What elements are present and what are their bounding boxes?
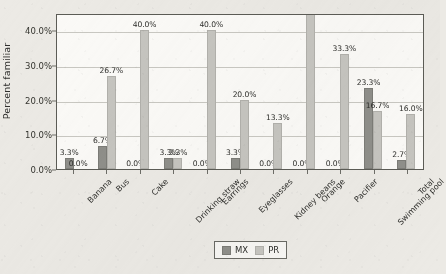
bar-value-label: 16.0%	[399, 104, 423, 113]
bar-value-label: 26.7%	[100, 66, 124, 75]
bar-mx: 0.0%	[264, 14, 273, 169]
bar-pr: 16.7%	[373, 14, 382, 169]
bar-fill	[273, 123, 282, 169]
bar-mx: 6.7%	[98, 14, 107, 169]
x-tick-mark	[106, 170, 107, 174]
bar-pr: 33.3%	[340, 14, 349, 169]
bar-group: 3.3%20.0%	[223, 15, 256, 169]
bar-value-label: 13.3%	[266, 113, 290, 122]
x-tick-mark	[340, 170, 341, 174]
bar-group: 23.3%16.7%	[356, 15, 389, 169]
bar-group: 0.0%13.3%	[257, 15, 290, 169]
bar-pr: 46.7%	[306, 14, 315, 169]
bar-mx: 2.7%	[397, 14, 406, 169]
bar-fill	[306, 14, 315, 169]
bar-pr: 13.3%	[273, 14, 282, 169]
bar-fill	[107, 76, 116, 169]
y-tick-label: 20.0%	[4, 96, 52, 106]
bar-fill	[373, 111, 382, 169]
bar-pr: 16.0%	[406, 14, 415, 169]
bar-value-label: 33.3%	[332, 44, 356, 53]
y-tick-label: 30.0%	[4, 61, 52, 71]
x-tick-label: Bus	[114, 177, 131, 194]
y-tick-label: 10.0%	[4, 130, 52, 140]
bar-group: 2.7%16.0%	[390, 15, 423, 169]
bar-pr: 40.0%	[207, 14, 216, 169]
x-tick-mark	[374, 170, 375, 174]
bar-value-label: 40.0%	[199, 20, 223, 29]
y-tick-mark	[52, 135, 56, 136]
bar-group: 6.7%26.7%	[90, 15, 123, 169]
bar-mx: 0.0%	[331, 14, 340, 169]
bar-group: 0.0%33.3%	[323, 15, 356, 169]
x-tick-mark	[173, 170, 174, 174]
bar-fill	[340, 54, 349, 169]
plot-area: 3.3%0.0%6.7%26.7%0.0%40.0%3.3%3.3%0.0%40…	[56, 14, 424, 170]
y-tick-mark	[52, 100, 56, 101]
y-tick-label: 40.0%	[4, 26, 52, 36]
x-tick-mark	[140, 170, 141, 174]
bar-pr: 3.3%	[173, 14, 182, 169]
bar-mx: 0.0%	[297, 14, 306, 169]
legend-item-mx: MX	[222, 245, 248, 255]
bar-mx: 3.3%	[164, 14, 173, 169]
x-tick-mark	[240, 170, 241, 174]
x-tick-label: Eyeglasses	[257, 177, 295, 215]
x-tick-label: Banana	[86, 177, 114, 205]
y-tick-mark	[52, 170, 56, 171]
x-tick-label: Cake	[149, 177, 169, 197]
y-tick-label: 0.0%	[4, 165, 52, 175]
bar-mx: 3.3%	[65, 14, 74, 169]
x-tick-mark	[73, 170, 74, 174]
bar-pr: 26.7%	[107, 14, 116, 169]
bar-fill	[406, 114, 415, 169]
legend-label: MX	[235, 245, 248, 255]
y-tick-mark	[52, 31, 56, 32]
bar-pr: 20.0%	[240, 14, 249, 169]
bar-value-label: 0.0%	[69, 159, 88, 168]
legend-swatch-pr	[255, 246, 264, 255]
x-tick-mark	[307, 170, 308, 174]
bar-fill	[240, 100, 249, 169]
bar-group: 0.0%40.0%	[124, 15, 157, 169]
x-tick-label: Pacifier	[353, 177, 380, 204]
legend-swatch-mx	[222, 246, 231, 255]
legend-label: PR	[268, 245, 279, 255]
bar-value-label: 20.0%	[233, 90, 257, 99]
bar-value-label: 40.0%	[133, 20, 157, 29]
bar-fill	[231, 158, 240, 169]
bar-fill	[164, 158, 173, 169]
bar-value-label: 3.3%	[168, 148, 187, 157]
bar-fill	[207, 30, 216, 169]
x-tick-label: Drinking straw	[194, 177, 242, 225]
bar-value-label: 16.7%	[366, 101, 390, 110]
y-tick-mark	[52, 66, 56, 67]
bar-fill	[173, 158, 182, 169]
bar-group: 3.3%0.0%	[57, 15, 90, 169]
x-tick-mark	[407, 170, 408, 174]
bar-group: 0.0%46.7%	[290, 15, 323, 169]
bar-fill	[140, 30, 149, 169]
x-tick-label: Kidney beans	[293, 177, 338, 222]
x-tick-mark	[207, 170, 208, 174]
chart-legend: MXPR	[214, 241, 287, 259]
bar-mx: 0.0%	[198, 14, 207, 169]
bar-group: 3.3%3.3%	[157, 15, 190, 169]
bar-pr: 40.0%	[140, 14, 149, 169]
bar-pr: 0.0%	[74, 14, 83, 169]
bar-fill	[397, 160, 406, 169]
bar-mx: 23.3%	[364, 14, 373, 169]
bar-groups: 3.3%0.0%6.7%26.7%0.0%40.0%3.3%3.3%0.0%40…	[57, 15, 423, 169]
bar-group: 0.0%40.0%	[190, 15, 223, 169]
bar-fill	[98, 146, 107, 169]
x-tick-mark	[273, 170, 274, 174]
bar-mx: 0.0%	[131, 14, 140, 169]
legend-item-pr: PR	[255, 245, 279, 255]
